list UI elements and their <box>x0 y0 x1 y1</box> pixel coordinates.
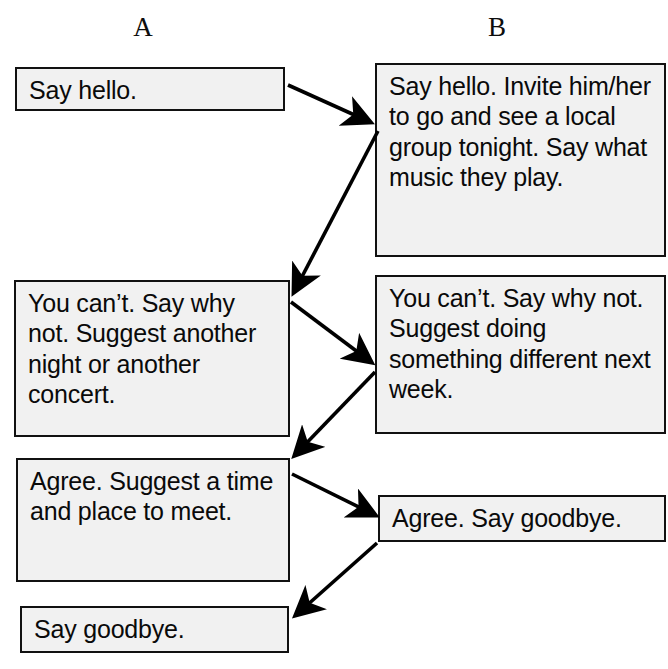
flow-box-a3: Agree. Suggest a time and place to meet. <box>16 458 290 582</box>
flow-box-b2: You can’t. Say why not. Suggest doing so… <box>375 275 666 434</box>
flow-box-a4: Say goodbye. <box>20 606 289 653</box>
dialogue-flowchart: A B Say hello. You can’t. Say why not. S… <box>0 0 668 669</box>
flow-box-b3: Agree. Say goodbye. <box>378 495 666 542</box>
arrow-a1-b1-icon <box>288 85 370 122</box>
column-header-b: B <box>457 14 537 41</box>
arrow-a3-b3-icon <box>292 474 375 515</box>
arrow-b1-a2-icon <box>294 131 378 292</box>
flow-box-a2: You can’t. Say why not. Suggest another … <box>14 280 290 437</box>
column-header-a: A <box>103 14 183 41</box>
arrow-b2-a3-icon <box>295 372 375 455</box>
arrow-a2-b2-icon <box>291 302 371 362</box>
flow-box-b1: Say hello. Invite him/her to go and see … <box>375 63 666 257</box>
arrow-b3-a4-icon <box>296 543 377 615</box>
flow-box-a1: Say hello. <box>15 67 285 111</box>
